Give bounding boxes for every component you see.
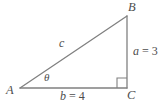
angle-label-theta: θ — [44, 72, 49, 83]
hypotenuse-label: c — [59, 37, 64, 49]
side-a-value: 3 — [152, 44, 158, 58]
vertex-label-c: C — [127, 89, 135, 102]
side-b-value: 4 — [79, 89, 85, 103]
right-angle-marker-icon — [117, 78, 127, 88]
side-measure-a: a = 3 — [133, 45, 158, 57]
side-a-equals: = — [139, 44, 152, 58]
geometry-figure: B A C c θ a = 3 b = 4 — [0, 0, 166, 107]
vertex-label-a: A — [6, 84, 14, 97]
side-b-equals: = — [66, 89, 79, 103]
vertex-label-b: B — [128, 1, 136, 14]
side-measure-b: b = 4 — [60, 90, 85, 102]
hypotenuse-line-AB — [20, 16, 127, 88]
